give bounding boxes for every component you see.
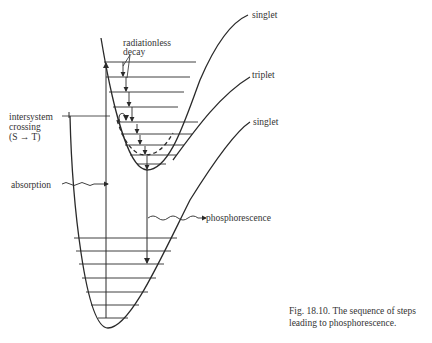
label-triplet: triplet <box>252 70 275 80</box>
excited-vibrational-levels <box>104 62 198 164</box>
phosphorescence-diagram <box>0 0 432 343</box>
isc-loop <box>119 113 126 122</box>
ground-vibrational-levels <box>74 238 177 318</box>
absorption-wavy-arrow <box>62 183 108 186</box>
label-decay: decay <box>123 47 145 57</box>
triplet-curve-right <box>173 77 250 160</box>
label-singlet-ground: singlet <box>253 117 278 127</box>
label-crossing: crossing <box>9 122 41 132</box>
label-intersystem: intersystem <box>9 112 53 122</box>
radiationless-decay-arrows <box>123 62 147 169</box>
label-s-to-t: (S → T) <box>9 132 41 142</box>
label-singlet-upper: singlet <box>252 10 277 20</box>
label-phosphorescence: phosphorescence <box>206 213 271 223</box>
label-absorption: absorption <box>11 180 51 190</box>
figure-caption: Fig. 18.10. The sequence of steps leadin… <box>289 305 429 329</box>
phosphorescence-wavy-arrow <box>148 216 206 220</box>
